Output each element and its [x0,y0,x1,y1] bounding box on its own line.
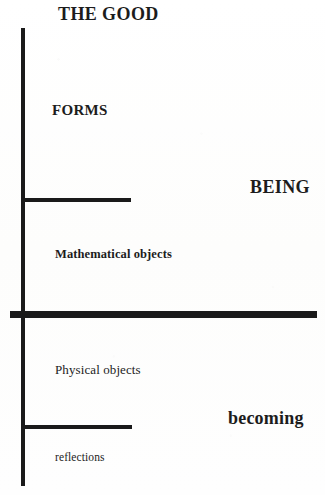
label-mathematical-objects: Mathematical objects [55,248,172,261]
label-the-good: THE GOOD [58,5,159,23]
upper-subdivision-line [22,198,131,202]
vertical-axis-line [21,28,25,486]
main-divider-line [10,311,317,318]
label-reflections: reflections [55,452,105,464]
label-physical-objects: Physical objects [55,363,141,376]
label-forms: FORMS [52,103,108,118]
lower-subdivision-line [22,425,132,429]
label-being: BEING [250,178,310,196]
label-becoming: becoming [228,409,304,427]
divided-line-diagram: THE GOOD FORMS BEING Mathematical object… [0,0,325,495]
